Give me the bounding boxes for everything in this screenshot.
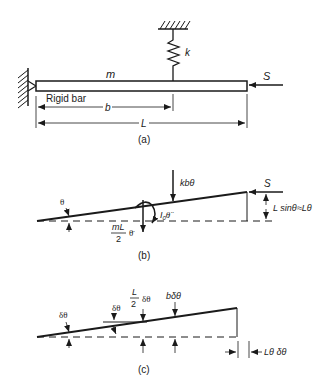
angle-dtheta-left-label: δθ	[59, 310, 68, 320]
svg-text:mL: mL	[112, 222, 125, 232]
wall-support	[18, 68, 28, 108]
rigid-bar-label: Rigid bar	[46, 93, 87, 104]
panel-b: θ kbθ I0θ̈ mL 2 θ̈ S L sinθ≈Lθ (b)	[37, 170, 312, 261]
caption-a: (a)	[138, 134, 150, 145]
angle-dtheta-mid-label: δθ	[112, 303, 121, 313]
svg-text:δθ: δθ	[142, 294, 151, 304]
svg-text:2: 2	[116, 234, 121, 244]
panel-c: δθ δθ L 2 δθ bδθ Lθ δθ (c)	[37, 287, 286, 375]
mass-force-label: mL 2 θ̈	[111, 222, 135, 244]
force-s-label: S	[263, 70, 271, 82]
angle-theta-label: θ	[60, 197, 64, 207]
mechanics-figure: k m S Rigid bar b L (a)	[0, 0, 335, 390]
svg-text:2: 2	[131, 299, 136, 309]
spring-label: k	[185, 47, 191, 58]
force-s-label-b: S	[264, 178, 271, 189]
horizontal-displacement-label: Lθ δθ	[264, 347, 286, 357]
svg-text:θ̈: θ̈	[129, 228, 135, 238]
inertia-moment-label: I0θ̈	[160, 210, 174, 221]
midpoint-displacement-label: L 2 δθ	[130, 287, 151, 309]
spring-icon	[168, 29, 179, 81]
panel-a: k m S Rigid bar b L (a)	[18, 21, 283, 145]
mass-label: m	[106, 68, 115, 80]
caption-b: (b)	[138, 250, 150, 261]
svg-text:L: L	[132, 287, 137, 297]
spring-force-label: kbθ	[180, 178, 195, 188]
height-label: L sinθ≈Lθ	[273, 203, 312, 213]
pin-support	[28, 81, 36, 91]
spring-displacement-label: bδθ	[166, 291, 181, 301]
caption-c: (c)	[138, 364, 150, 375]
dimension-L: L	[38, 118, 245, 129]
rigid-bar	[36, 81, 247, 91]
svg-text:L: L	[141, 118, 147, 129]
rotated-bar	[37, 192, 247, 221]
svg-text:b: b	[105, 102, 111, 113]
ceiling-support	[158, 21, 190, 29]
